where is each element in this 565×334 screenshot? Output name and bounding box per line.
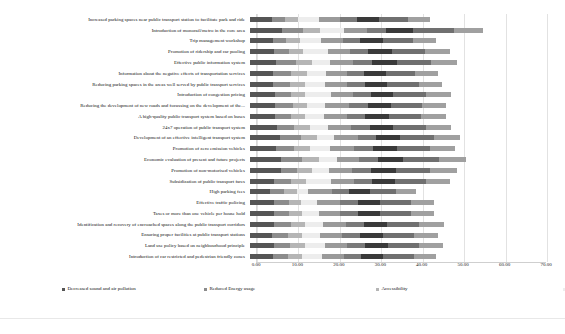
bar-segment[interactable] bbox=[301, 135, 318, 140]
bar-segment[interactable] bbox=[305, 82, 326, 87]
bar-segment[interactable] bbox=[296, 60, 312, 65]
bar-segment[interactable] bbox=[273, 71, 290, 76]
stacked-bar[interactable] bbox=[250, 49, 450, 54]
bar-segment[interactable] bbox=[395, 179, 427, 184]
bar-segment[interactable] bbox=[347, 71, 364, 76]
bar-segment[interactable] bbox=[419, 243, 443, 248]
bar-segment[interactable] bbox=[403, 157, 439, 162]
bar-segment[interactable] bbox=[291, 71, 308, 76]
bar-segment[interactable] bbox=[422, 103, 446, 108]
bar-segment[interactable] bbox=[414, 233, 438, 238]
bar-segment[interactable] bbox=[386, 28, 413, 33]
bar-segment[interactable] bbox=[454, 28, 483, 33]
bar-segment[interactable] bbox=[312, 168, 329, 173]
bar-segment[interactable] bbox=[250, 49, 274, 54]
bar-segment[interactable] bbox=[365, 114, 389, 119]
bar-segment[interactable] bbox=[277, 125, 294, 130]
bar-segment[interactable] bbox=[323, 222, 345, 227]
bar-segment[interactable] bbox=[281, 157, 302, 162]
bar-segment[interactable] bbox=[273, 38, 286, 43]
bar-segment[interactable] bbox=[393, 92, 426, 97]
bar-segment[interactable] bbox=[331, 179, 354, 184]
bar-segment[interactable] bbox=[426, 125, 451, 130]
stacked-bar[interactable] bbox=[250, 38, 436, 43]
bar-segment[interactable] bbox=[386, 71, 415, 76]
bar-segment[interactable] bbox=[302, 157, 319, 162]
bar-segment[interactable] bbox=[329, 168, 352, 173]
bar-segment[interactable] bbox=[368, 49, 392, 54]
bar-segment[interactable] bbox=[419, 82, 442, 87]
bar-segment[interactable] bbox=[302, 233, 320, 238]
bar-segment[interactable] bbox=[373, 146, 397, 151]
bar-segment[interactable] bbox=[400, 135, 434, 140]
bar-segment[interactable] bbox=[380, 211, 411, 216]
bar-segment[interactable] bbox=[354, 179, 372, 184]
bar-segment[interactable] bbox=[250, 17, 272, 22]
bar-segment[interactable] bbox=[290, 82, 305, 87]
bar-segment[interactable] bbox=[302, 254, 322, 259]
bar-segment[interactable] bbox=[297, 189, 308, 194]
bar-segment[interactable] bbox=[411, 200, 434, 205]
bar-segment[interactable] bbox=[303, 49, 328, 54]
bar-segment[interactable] bbox=[337, 157, 360, 162]
stacked-bar[interactable] bbox=[250, 157, 466, 162]
bar-segment[interactable] bbox=[319, 17, 341, 22]
bar-segment[interactable] bbox=[368, 103, 391, 108]
bar-segment[interactable] bbox=[273, 82, 290, 87]
legend-item[interactable]: Reduced Energy usage bbox=[204, 284, 364, 294]
bar-segment[interactable] bbox=[340, 211, 358, 216]
bar-segment[interactable] bbox=[250, 146, 276, 151]
bar-segment[interactable] bbox=[349, 103, 367, 108]
bar-segment[interactable] bbox=[250, 243, 274, 248]
bar-segment[interactable] bbox=[291, 179, 306, 184]
bar-segment[interactable] bbox=[280, 135, 301, 140]
bar-segment[interactable] bbox=[330, 60, 353, 65]
bar-segment[interactable] bbox=[421, 114, 445, 119]
bar-segment[interactable] bbox=[370, 189, 396, 194]
bar-segment[interactable] bbox=[275, 103, 293, 108]
bar-segment[interactable] bbox=[320, 233, 342, 238]
bar-segment[interactable] bbox=[383, 38, 413, 43]
bar-segment[interactable] bbox=[319, 157, 337, 162]
bar-segment[interactable] bbox=[431, 60, 457, 65]
bar-segment[interactable] bbox=[305, 243, 325, 248]
bar-segment[interactable] bbox=[270, 189, 284, 194]
bar-segment[interactable] bbox=[392, 49, 426, 54]
stacked-bar[interactable] bbox=[250, 60, 457, 65]
bar-segment[interactable] bbox=[360, 233, 383, 238]
bar-segment[interactable] bbox=[379, 17, 408, 22]
stacked-bar[interactable] bbox=[250, 168, 457, 173]
bar-segment[interactable] bbox=[250, 200, 274, 205]
bar-segment[interactable] bbox=[325, 243, 347, 248]
bar-segment[interactable] bbox=[250, 38, 273, 43]
bar-segment[interactable] bbox=[364, 71, 386, 76]
bar-segment[interactable] bbox=[365, 82, 387, 87]
stacked-bar[interactable] bbox=[250, 200, 434, 205]
legend-item[interactable]: Decreased sound and air pollution bbox=[62, 284, 192, 294]
bar-segment[interactable] bbox=[250, 233, 272, 238]
bar-segment[interactable] bbox=[250, 168, 281, 173]
bar-segment[interactable] bbox=[430, 146, 455, 151]
bar-segment[interactable] bbox=[324, 114, 347, 119]
bar-segment[interactable] bbox=[350, 49, 368, 54]
bar-segment[interactable] bbox=[397, 60, 431, 65]
bar-segment[interactable] bbox=[364, 222, 387, 227]
stacked-bar[interactable] bbox=[250, 233, 438, 238]
bar-segment[interactable] bbox=[274, 179, 291, 184]
bar-segment[interactable] bbox=[286, 38, 300, 43]
stacked-bar[interactable] bbox=[250, 103, 446, 108]
bar-segment[interactable] bbox=[289, 49, 304, 54]
bar-segment[interactable] bbox=[426, 179, 450, 184]
bar-segment[interactable] bbox=[317, 200, 340, 205]
bar-segment[interactable] bbox=[322, 254, 344, 259]
bar-segment[interactable] bbox=[281, 168, 297, 173]
bar-segment[interactable] bbox=[334, 135, 357, 140]
bar-segment[interactable] bbox=[344, 254, 362, 259]
bar-segment[interactable] bbox=[294, 125, 310, 130]
bar-segment[interactable] bbox=[282, 28, 303, 33]
bar-segment[interactable] bbox=[351, 125, 369, 130]
bar-segment[interactable] bbox=[274, 243, 289, 248]
bar-segment[interactable] bbox=[353, 60, 372, 65]
bar-segment[interactable] bbox=[387, 82, 418, 87]
bar-segment[interactable] bbox=[320, 28, 343, 33]
